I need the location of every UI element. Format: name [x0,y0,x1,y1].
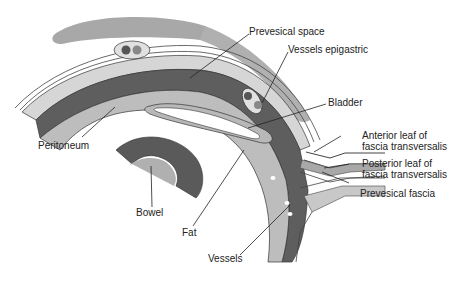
epigastric-vessel-2 [133,46,142,55]
label-posterior-leaf-line2: fascia transversalis [362,169,447,180]
label-fat: Fat [182,227,196,238]
label-posterior-leaf: Posterior leaf of fascia transversalis [362,158,447,180]
label-anterior-leaf-line2: fascia transversalis [362,141,447,152]
epigastric-vessel-capsule-top [114,41,150,59]
label-prevesical-fascia: Prevesical fascia [360,188,435,199]
label-posterior-leaf-line1: Posterior leaf of [362,158,432,169]
label-prevesical-space: Prevesical space [249,26,325,37]
label-bowel: Bowel [136,207,163,218]
small-vessel [271,176,276,180]
label-anterior-leaf-line1: Anterior leaf of [362,130,427,141]
rectus-muscle [52,17,210,44]
label-vessels: Vessels [208,253,242,264]
small-vessel [288,212,293,216]
label-peritoneum: Peritoneum [38,140,89,151]
label-bladder: Bladder [328,97,362,108]
label-anterior-leaf: Anterior leaf of fascia transversalis [362,130,447,152]
label-vessels-epigastric: Vessels epigastric [288,44,368,55]
epigastric-vessel-1 [122,46,131,55]
small-vessel [285,201,290,205]
